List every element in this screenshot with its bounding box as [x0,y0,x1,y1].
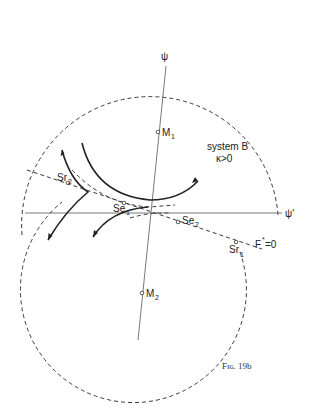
upper-dashed-circle [22,97,278,235]
se2-label-main: Se [182,215,195,226]
sr2-label-sub: 2 [68,178,72,185]
sr2-label-main: Sr [57,172,68,183]
psi-label: ψ [161,51,168,62]
m1-label-sub: 1 [171,133,175,140]
se2-label-sub: 2 [195,221,199,228]
m2-label-main: M [146,288,154,299]
trajectory-upper [82,143,198,200]
figure-caption: Fɪɢ. 19b [222,361,252,371]
sr1-label-main: Sr [229,244,240,255]
point-m2 [140,291,144,295]
se1-label-sub: 1 [126,209,130,216]
system-label: system B [207,141,248,152]
se1-label-main: Se [113,203,126,214]
trajectory-left [48,150,88,240]
point-se2 [176,220,180,224]
m2-label-sub: 2 [155,294,159,301]
point-m1 [156,130,160,134]
lower-dashed-circle [20,202,246,403]
sr1-label-sub: 1 [240,251,244,258]
psi-prime-label: ψ' [285,208,294,219]
m1-label-main: M [162,127,170,138]
condition-label: κ>0 [216,153,233,164]
diagram-figure: ψ ψ' M 1 M 2 Se 1 Se 2 Sr 1 Sr 2 F * =0 … [0,0,313,415]
f-star-label-main: F [255,239,261,250]
f-star-label-rest: =0 [265,239,277,250]
